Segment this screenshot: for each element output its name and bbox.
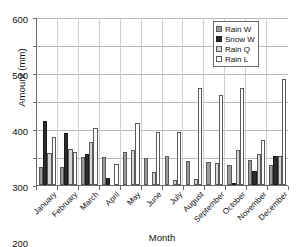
x-axis-tick-label: March	[78, 190, 100, 212]
legend-swatch	[216, 46, 222, 52]
bar	[144, 158, 148, 185]
x-axis-tick	[288, 186, 289, 190]
bar-chart: Amount (mm) 0100200300400500600 JanuaryF…	[0, 0, 299, 247]
bar-group	[142, 18, 163, 185]
legend-swatch	[216, 26, 222, 32]
bar	[114, 164, 118, 185]
y-axis-tick-label: 400	[12, 126, 28, 137]
bar	[73, 152, 77, 185]
bar	[240, 88, 244, 185]
legend-swatch	[216, 36, 222, 42]
bar	[106, 178, 110, 185]
bar	[282, 79, 286, 185]
legend-label: Snow W	[225, 35, 255, 44]
legend-label: Rain L	[225, 55, 248, 64]
bar	[261, 140, 265, 185]
bar-group	[58, 18, 79, 185]
y-axis-tick-label: 200	[12, 238, 28, 247]
bar	[177, 132, 181, 185]
legend-item: Rain Q	[216, 44, 255, 54]
bar-group	[163, 18, 184, 185]
x-axis-tick-label: July	[167, 190, 183, 206]
x-axis-labels: JanuaryFebruaryMarchAprilMayJuneJulyAugu…	[36, 190, 288, 234]
legend-label: Rain W	[225, 25, 251, 34]
bar	[52, 137, 56, 185]
legend-label: Rain Q	[225, 45, 250, 54]
bar	[206, 162, 210, 185]
bar	[156, 132, 160, 185]
x-axis-tick-label: June	[144, 190, 163, 209]
bar-group	[183, 18, 204, 185]
bar-group	[79, 18, 100, 185]
y-axis-tick-label: 500	[12, 70, 28, 81]
bar	[165, 156, 169, 185]
x-axis-tick-label: May	[125, 190, 142, 207]
bar-group	[121, 18, 142, 185]
bar	[93, 128, 97, 185]
y-axis-tick-label: 300	[12, 182, 28, 193]
legend-swatch	[216, 56, 222, 62]
bar	[123, 152, 127, 185]
x-axis-title: Month	[36, 232, 288, 243]
bar	[186, 161, 190, 185]
bar-group	[267, 18, 288, 185]
x-axis-tick-label: April	[103, 190, 121, 208]
legend-item: Rain L	[216, 54, 255, 64]
y-axis-tick-label: 600	[12, 14, 28, 25]
legend-item: Rain W	[216, 24, 255, 34]
chart-legend: Rain WSnow WRain QRain L	[213, 21, 259, 67]
legend-item: Snow W	[216, 34, 255, 44]
bar-group	[100, 18, 121, 185]
bar-group	[37, 18, 58, 185]
bar	[198, 88, 202, 185]
bar	[219, 95, 223, 185]
bar	[135, 123, 139, 185]
